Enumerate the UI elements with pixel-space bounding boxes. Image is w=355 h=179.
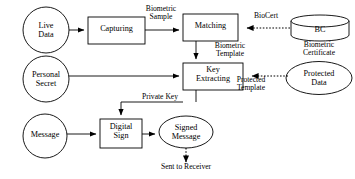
node-bc-cylinder [291, 15, 349, 41]
node-protected-data [286, 62, 352, 95]
node-matching [183, 14, 238, 41]
node-digital-sign [100, 119, 142, 148]
biometric-flow-diagram: Live Data Capturing Matching BC Personal… [0, 0, 355, 179]
node-message [23, 114, 67, 158]
node-signed-message [159, 116, 213, 148]
edge-key-to-sign [121, 102, 183, 115]
node-personal-secret [23, 56, 69, 102]
node-live-data [23, 7, 69, 53]
node-capturing [88, 17, 145, 44]
node-key-extracting [183, 63, 243, 90]
diagram-canvas [0, 0, 355, 179]
